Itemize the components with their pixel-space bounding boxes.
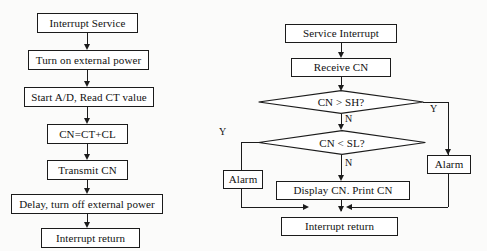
connector-r4-yes-vertical <box>241 142 242 170</box>
node-label: Interrupt return <box>305 221 374 232</box>
decision-label: CN > SH? <box>318 96 365 108</box>
node-label: Alarm <box>229 174 258 185</box>
node-label: Turn on external power <box>36 55 141 66</box>
decision-label: CN < SL? <box>319 137 365 149</box>
node-delay-turn-off-external-power: Delay, turn off external power <box>11 194 163 214</box>
node-interrupt-return-left: Interrupt return <box>41 228 140 248</box>
node-label: Interrupt Service <box>50 18 126 29</box>
connector-l3-l4 <box>87 107 88 118</box>
node-label: Interrupt return <box>56 233 125 244</box>
connector-r4-yes-horizontal <box>241 142 259 143</box>
node-label: Start A/D, Read CT value <box>31 92 147 103</box>
label-sh-no: N <box>345 114 352 124</box>
label-sl-yes: Y <box>219 127 226 137</box>
connector-alarm-left-to-merge <box>241 207 303 208</box>
node-interrupt-return-right: Interrupt return <box>281 217 398 236</box>
decision-cn-greater-sh: CN > SH? <box>258 90 424 114</box>
node-label: Alarm <box>435 159 464 170</box>
connector-r1-r2 <box>341 43 342 52</box>
node-start-ad-read-ct: Start A/D, Read CT value <box>24 87 154 107</box>
node-label: Delay, turn off external power <box>19 199 155 210</box>
node-alarm-right: Alarm <box>427 155 471 174</box>
connector-l4-l5 <box>87 144 88 154</box>
connector-l1-l2 <box>87 33 88 44</box>
connector-alarm-right-to-merge <box>352 207 448 208</box>
decision-cn-less-sl: CN < SL? <box>258 130 426 155</box>
label-sl-no: N <box>345 158 352 168</box>
connector-l6-l7 <box>87 214 88 222</box>
node-alarm-left: Alarm <box>223 170 263 189</box>
node-transmit-cn: Transmit CN <box>47 160 128 180</box>
arrow-alarm-right-merge <box>346 204 352 210</box>
node-label: Receive CN <box>314 62 368 73</box>
connector-r2-r3 <box>341 77 342 85</box>
connector-alarm-right-down <box>448 174 449 207</box>
node-label: Service Interrupt <box>303 28 379 39</box>
node-label: CN=CT+CL <box>59 129 116 140</box>
connector-l5-l6 <box>87 180 88 188</box>
node-interrupt-service: Interrupt Service <box>37 13 138 33</box>
connector-alarm-left-down <box>241 189 242 207</box>
connector-r3-no <box>341 114 342 124</box>
node-turn-on-external-power: Turn on external power <box>28 50 149 70</box>
connector-l2-l3 <box>87 70 88 81</box>
arrow-display-to-return <box>338 206 344 212</box>
connector-r3-yes-vertical <box>448 102 449 155</box>
node-label: Display CN. Print CN <box>293 185 392 196</box>
connector-r4-no <box>341 155 342 175</box>
label-sh-yes: Y <box>430 104 437 114</box>
node-receive-cn: Receive CN <box>291 58 391 77</box>
node-label: Transmit CN <box>58 165 116 176</box>
arrow-alarm-left-merge <box>303 204 309 210</box>
node-cn-equals-ct-plus-cl: CN=CT+CL <box>47 124 128 144</box>
node-service-interrupt: Service Interrupt <box>285 24 397 43</box>
flowchart-figure: Interrupt Service Turn on external power… <box>0 0 487 251</box>
node-display-print-cn: Display CN. Print CN <box>276 181 410 200</box>
